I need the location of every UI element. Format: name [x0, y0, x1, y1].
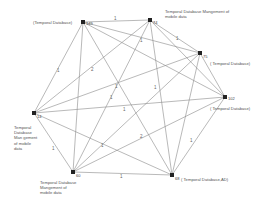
- node-id: 149: [86, 21, 93, 26]
- edge-label: 1: [57, 68, 60, 73]
- node-id: 74: [153, 20, 157, 25]
- node-label: Temporal Database Man gement of mobile d…: [14, 125, 38, 151]
- edge-label: 1: [115, 84, 118, 89]
- node-label: (Temporal Database): [33, 20, 72, 25]
- node-label: Temporal Database Mangement of mobile da…: [165, 9, 235, 19]
- node-label: ( Temporal Database): [210, 106, 250, 111]
- edge-label: 1: [123, 107, 126, 112]
- edge-label: 1: [154, 85, 157, 90]
- edge-label: 1: [190, 138, 193, 143]
- node-label: ( Temporal Database): [210, 61, 250, 66]
- node-id: 102: [228, 96, 235, 101]
- edge-label: 1: [120, 174, 123, 179]
- edge-label: 1: [110, 95, 113, 100]
- edge-label: 1: [140, 38, 143, 43]
- node-id: 14: [37, 114, 41, 119]
- edge-label: 1: [101, 143, 104, 148]
- edge-label: 2: [140, 134, 143, 139]
- node-id: 68: [175, 176, 179, 181]
- edge-label: 2: [91, 67, 94, 72]
- node-label: Temporal Database Mangement of mobile da…: [40, 180, 78, 196]
- node-id: 75: [203, 54, 207, 59]
- edge-label: 1: [52, 146, 55, 151]
- graph-canvas: 149 74 75 102 68 60 14 (Temporal Databas…: [0, 0, 270, 207]
- node-id: 60: [76, 173, 80, 178]
- node-label: ( Temporal Database,AD): [181, 177, 228, 182]
- edge-label: 1: [176, 36, 179, 41]
- graph-edges: [0, 0, 270, 207]
- edge-label: 1: [114, 16, 117, 21]
